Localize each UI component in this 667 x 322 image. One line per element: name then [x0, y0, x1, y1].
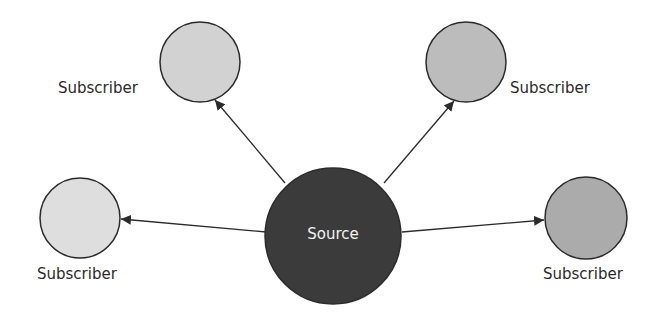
- pub-sub-diagram: Source Subscriber Subscriber Subscriber …: [0, 0, 667, 322]
- subscriber-label-top-left: Subscriber: [58, 79, 138, 97]
- source-label: Source: [307, 225, 359, 243]
- subscriber-label-right: Subscriber: [543, 265, 623, 283]
- subscriber-label-left: Subscriber: [37, 265, 117, 283]
- edge-source-to-top-right: [384, 101, 454, 183]
- edge-source-to-left: [121, 219, 266, 232]
- edge-source-to-right: [402, 220, 544, 232]
- subscriber-node-top-left: [160, 22, 240, 102]
- subscriber-node-right: [545, 177, 627, 259]
- subscriber-label-top-right: Subscriber: [510, 79, 590, 97]
- subscriber-node-top-right: [426, 22, 506, 102]
- subscriber-node-left: [40, 178, 120, 258]
- edge-source-to-top-left: [215, 100, 285, 183]
